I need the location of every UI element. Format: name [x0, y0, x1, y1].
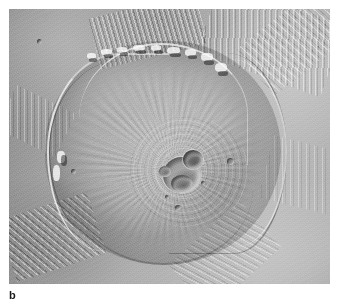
caldera-northeast-pit — [183, 150, 203, 169]
small-crater — [227, 158, 234, 165]
rim-block-shadow — [120, 52, 128, 56]
figure-panel-label: b — [9, 290, 16, 301]
rim-block — [53, 165, 60, 181]
rim-block-shadow — [104, 54, 113, 58]
caldera-west-notch — [159, 166, 171, 177]
small-crater — [201, 181, 205, 185]
caldera-south-pit — [171, 175, 193, 192]
small-crater — [175, 205, 181, 210]
rim-block-shadow — [204, 60, 214, 65]
figure-panel: b — [0, 0, 343, 304]
small-crater — [71, 169, 76, 174]
small-crater — [165, 195, 169, 199]
rim-block-shadow — [136, 50, 146, 54]
rim-block-shadow — [170, 53, 181, 57]
rim-block-shadow — [154, 50, 163, 54]
rim-block-shadow — [89, 58, 97, 62]
rim-block-shadow — [188, 55, 197, 59]
mars-volcano-photograph — [9, 9, 330, 284]
small-crater — [37, 39, 42, 44]
